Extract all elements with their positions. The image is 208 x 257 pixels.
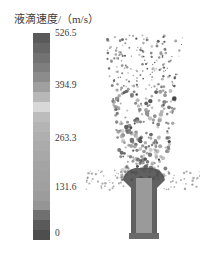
tick-394: 394.9 xyxy=(55,80,76,90)
nozzle xyxy=(123,168,165,239)
spray-plot xyxy=(85,30,200,250)
tick-131: 131.6 xyxy=(55,182,76,192)
colorbar-title: 液滴速度/（m/s） xyxy=(14,10,99,26)
colorbar xyxy=(33,33,50,240)
tick-zero: 0 xyxy=(55,228,60,238)
tick-263: 263.3 xyxy=(55,133,76,143)
tick-max: 526.5 xyxy=(55,28,76,38)
droplet-cloud xyxy=(86,34,201,191)
